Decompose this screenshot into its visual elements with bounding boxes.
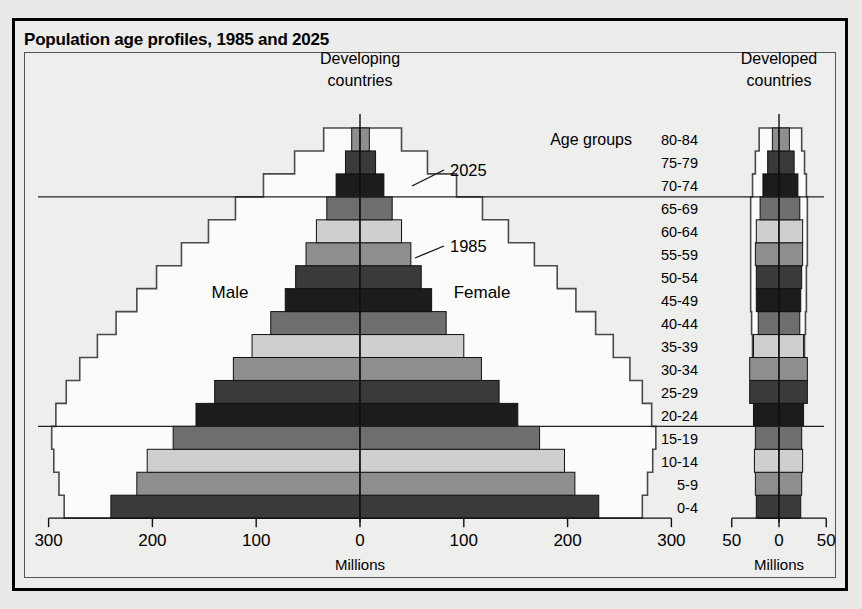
- bar-1985-female-80-84: [779, 128, 789, 151]
- age-group-label: 35-39: [661, 339, 698, 355]
- bar-1985-male-60-64: [316, 220, 360, 243]
- age-group-label: 70-74: [661, 178, 698, 194]
- bar-1985-female-30-34: [360, 358, 481, 381]
- bar-1985-male-20-24: [753, 403, 779, 426]
- bar-1985-female-40-44: [360, 312, 446, 335]
- bar-1985-female-60-64: [779, 220, 803, 243]
- bar-1985-male-55-59: [306, 243, 360, 266]
- bar-1985-female-5-9: [779, 472, 802, 495]
- screenshot-root: Population age profiles, 1985 and 2025 3…: [0, 0, 862, 609]
- annotation-1985: 1985: [450, 237, 487, 255]
- bar-1985-male-0-4: [756, 495, 779, 518]
- bar-1985-female-15-19: [360, 426, 540, 449]
- age-group-label: 55-59: [661, 247, 698, 263]
- axis-unit-label: Millions: [754, 556, 804, 573]
- bar-1985-male-45-49: [285, 289, 360, 312]
- bar-1985-female-20-24: [779, 403, 804, 426]
- bar-1985-male-35-39: [252, 335, 360, 358]
- bar-1985-female-65-69: [779, 197, 800, 220]
- bar-1985-female-50-54: [779, 266, 802, 289]
- bar-1985-female-75-79: [779, 151, 794, 174]
- developing-heading-line1: Developing: [320, 50, 400, 67]
- bar-1985-male-65-69: [760, 197, 779, 220]
- bar-1985-male-55-59: [755, 243, 779, 266]
- bar-1985-male-30-34: [233, 358, 360, 381]
- bar-1985-female-55-59: [360, 243, 411, 266]
- age-group-label: 20-24: [661, 408, 698, 424]
- bar-1985-male-35-39: [753, 335, 779, 358]
- axis-tick-label: 300: [657, 531, 685, 550]
- developed-heading-line2: countries: [747, 72, 812, 89]
- age-group-label: 45-49: [661, 293, 698, 309]
- annotation-2025: 2025: [450, 161, 487, 179]
- age-group-label: 65-69: [661, 201, 698, 217]
- bar-1985-female-80-84: [360, 128, 369, 151]
- panel-developed-countries: [750, 114, 808, 522]
- bar-1985-male-50-54: [756, 266, 779, 289]
- bar-1985-male-75-79: [768, 151, 779, 174]
- bar-1985-female-40-44: [779, 312, 800, 335]
- axis-tick-label: 50: [722, 531, 741, 550]
- bar-1985-female-10-14: [779, 449, 803, 472]
- axis-developing: 3002001000100200300Millions: [34, 518, 685, 573]
- bar-1985-female-0-4: [779, 495, 801, 518]
- panel-developing-countries: [52, 114, 656, 522]
- bar-1985-male-5-9: [137, 472, 360, 495]
- bar-1985-male-25-29: [750, 380, 779, 403]
- bar-1985-male-70-74: [336, 174, 360, 197]
- bar-1985-female-35-39: [779, 335, 804, 358]
- age-group-label: 25-29: [661, 385, 698, 401]
- age-groups-caption: Age groups: [550, 131, 632, 148]
- age-group-label: 75-79: [661, 155, 698, 171]
- bar-1985-female-65-69: [360, 197, 392, 220]
- developed-heading-line1: Developed: [741, 50, 818, 67]
- bar-1985-female-70-74: [779, 174, 798, 197]
- age-group-label: 15-19: [661, 431, 698, 447]
- bar-1985-female-20-24: [360, 403, 518, 426]
- bar-1985-male-80-84: [352, 128, 360, 151]
- axis-tick-label: 50: [817, 531, 836, 550]
- bar-1985-male-15-19: [755, 426, 779, 449]
- age-group-label: 40-44: [661, 316, 698, 332]
- bar-1985-male-45-49: [756, 289, 779, 312]
- axis-tick-label: 0: [774, 531, 783, 550]
- bar-1985-female-70-74: [360, 174, 384, 197]
- bar-1985-male-10-14: [147, 449, 360, 472]
- axis-unit-label: Millions: [335, 556, 385, 573]
- population-pyramid-chart: 3002001000100200300Millions50050Millions…: [12, 18, 850, 593]
- axis-tick-label: 100: [450, 531, 478, 550]
- axis-tick-label: 300: [34, 531, 62, 550]
- age-group-label: 80-84: [661, 132, 698, 148]
- bar-1985-male-25-29: [215, 380, 360, 403]
- bar-1985-male-10-14: [754, 449, 779, 472]
- age-group-label: 5-9: [677, 477, 698, 493]
- panel-headings: DevelopingcountriesDevelopedcountries: [320, 50, 817, 89]
- developing-heading-line2: countries: [328, 72, 393, 89]
- bar-1985-male-70-74: [763, 174, 779, 197]
- bar-1985-female-35-39: [360, 335, 464, 358]
- bar-1985-female-5-9: [360, 472, 575, 495]
- axis-tick-label: 200: [138, 531, 166, 550]
- bar-1985-male-75-79: [345, 151, 360, 174]
- female-label: Female: [454, 283, 511, 302]
- male-label: Male: [212, 283, 249, 302]
- bar-1985-male-40-44: [758, 312, 779, 335]
- axis-tick-label: 200: [553, 531, 581, 550]
- bar-1985-female-45-49: [779, 289, 801, 312]
- bar-1985-male-0-4: [111, 495, 360, 518]
- age-group-label: 60-64: [661, 224, 698, 240]
- bar-1985-female-15-19: [779, 426, 802, 449]
- bar-1985-male-30-34: [750, 358, 779, 381]
- bar-1985-female-45-49: [360, 289, 432, 312]
- age-group-label: 0-4: [677, 500, 698, 516]
- bar-1985-female-0-4: [360, 495, 599, 518]
- axis-developed: 50050Millions: [722, 518, 835, 573]
- axis-tick-label: 100: [242, 531, 270, 550]
- bar-1985-female-25-29: [779, 380, 807, 403]
- age-group-label: 10-14: [661, 454, 698, 470]
- bar-1985-male-50-54: [296, 266, 360, 289]
- bar-1985-male-20-24: [196, 403, 360, 426]
- bar-1985-female-75-79: [360, 151, 376, 174]
- bar-1985-male-80-84: [772, 128, 779, 151]
- bar-1985-male-40-44: [271, 312, 360, 335]
